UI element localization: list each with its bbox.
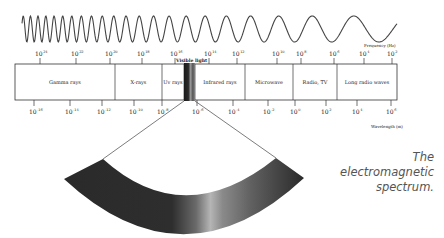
frequency-tick-label: 1016: [170, 50, 183, 57]
wavelength-tick-label: 10-10: [129, 108, 143, 115]
wavelength-tick: 10-12: [97, 100, 111, 115]
frequency-tick-label: 1020: [105, 50, 118, 57]
wavelength-tick: 10-16: [29, 100, 43, 115]
visible-spectrum-arc: [64, 158, 304, 234]
frequency-tick: 106: [329, 50, 339, 64]
wavelength-tick: 10-6: [192, 100, 204, 115]
svg-text:X-rays: X-rays: [131, 79, 147, 86]
wavelength-tick-label: 10-8: [157, 108, 169, 115]
frequency-tick: 1018: [137, 50, 150, 64]
wave-path: [22, 16, 397, 42]
frequency-tick: 1022: [71, 50, 84, 64]
wavelength-tick: 10-14: [65, 100, 80, 115]
wavelength-tick-label: 10-6: [192, 108, 204, 115]
wave: [22, 16, 397, 42]
frequency-tick-label: 1012: [232, 50, 245, 57]
wavelength-tick: 10-4: [228, 100, 240, 115]
wavelength-axis: 10-1610-1410-1210-1010-810-610-410-21001…: [29, 100, 396, 115]
frequency-tick: 102: [387, 50, 397, 64]
wavelength-tick-label: 10-2: [263, 108, 275, 115]
frequency-tick: 1012: [232, 50, 245, 64]
wavelength-tick: 10-10: [129, 100, 143, 115]
frequency-tick: 1010: [272, 50, 285, 64]
frequency-tick-label: 1014: [204, 50, 217, 57]
caption-line: The: [304, 150, 434, 165]
frequency-tick-label: 108: [296, 50, 306, 57]
frequency-tick: 104: [359, 50, 370, 64]
wavelength-tick-label: 10-12: [97, 108, 111, 115]
frequency-tick: 1024: [35, 50, 48, 64]
wavelength-tick: 10-8: [157, 100, 169, 115]
wavelength-tick-label: 106: [386, 108, 396, 115]
wavelength-tick-label: 102: [321, 108, 331, 115]
frequency-tick-label: 1024: [35, 50, 48, 57]
wavelength-tick-label: 10-4: [228, 108, 240, 115]
wavelength-tick: 104: [352, 100, 363, 115]
frequency-tick-label: 104: [359, 50, 370, 57]
wavelength-tick: 102: [321, 100, 331, 115]
wavelength-tick-label: 104: [352, 108, 363, 115]
frequency-tick-label: 1022: [71, 50, 84, 57]
frequency-tick-label: 106: [329, 50, 339, 57]
em-spectrum-diagram: 1024102210201018101610141012101010810610…: [0, 0, 444, 238]
frequency-axis-label: Frequency (Hz): [364, 43, 396, 48]
frequency-tick: 108: [296, 50, 306, 64]
svg-text:Radio, TV: Radio, TV: [303, 79, 328, 85]
wavelength-tick-label: 10-14: [65, 108, 80, 115]
caption-line: electromagnetic: [304, 165, 434, 180]
wavelength-axis-label: Wavelength (m): [371, 124, 403, 129]
caption-line: spectrum.: [304, 180, 434, 195]
spectrum-box: Gamma raysX-raysUv raysInfrared raysMicr…: [15, 58, 397, 101]
wavelength-tick-label: 10-16: [29, 108, 43, 115]
frequency-tick-label: 102: [387, 50, 397, 57]
svg-text:Gamma rays: Gamma rays: [49, 79, 81, 86]
visible-light-strip: [184, 63, 195, 101]
wavelength-tick: 100: [290, 100, 300, 115]
wavelength-tick: 10-2: [263, 100, 275, 115]
svg-text:Microwave: Microwave: [255, 79, 283, 85]
band-gamma-rays: Gamma rays: [49, 79, 81, 86]
svg-text:Uv rays: Uv rays: [163, 79, 183, 86]
figure-caption: The electromagnetic spectrum.: [304, 150, 434, 195]
svg-text:Infrared rays: Infrared rays: [203, 79, 237, 86]
frequency-tick-label: 1018: [137, 50, 150, 57]
svg-text:Long radio waves: Long radio waves: [345, 79, 390, 86]
wavelength-tick-label: 100: [290, 108, 300, 115]
wavelength-tick: 106: [386, 100, 396, 115]
frequency-tick: 1020: [105, 50, 118, 64]
frequency-axis: 1024102210201018101610141012101010810610…: [35, 50, 397, 64]
frequency-tick-label: 1010: [272, 50, 285, 57]
